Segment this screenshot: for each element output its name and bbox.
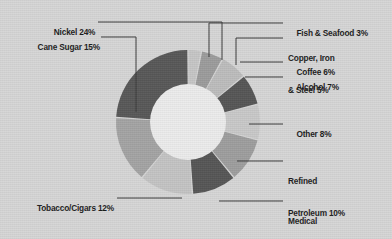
donut-hole: [150, 84, 226, 160]
callout-text-tobacco-line1: Tobacco/Cigars 12%: [37, 203, 114, 213]
callout-label-other: Other 8%: [288, 118, 331, 150]
callout-label-cane-sugar: Cane Sugar 15%: [29, 31, 100, 63]
callout-label-alcohol: Alcohol 7%: [288, 71, 339, 103]
donut-chart: Nickel 24% Cane Sugar 15% Tobacco/Cigars…: [0, 0, 392, 239]
leader-line-copper: [236, 38, 283, 65]
callout-text-other-line1: Other 8%: [296, 129, 331, 139]
callout-text-cane-sugar-line1: Cane Sugar 15%: [38, 42, 100, 52]
callout-label-tobacco: Tobacco/Cigars 12%: [28, 192, 114, 224]
callout-label-medical: Medical Products 10%: [288, 195, 341, 239]
callout-text-refined-petroleum-line1: Refined: [288, 176, 345, 187]
callout-text-alcohol-line1: Alcohol 7%: [296, 82, 339, 92]
callout-text-medical-line1: Medical: [288, 216, 341, 227]
leader-line-fish: [209, 23, 283, 57]
